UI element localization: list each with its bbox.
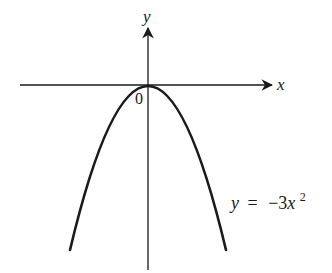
equation-exponent: 2 <box>300 190 306 204</box>
origin-label: 0 <box>135 90 143 107</box>
x-axis-label: x <box>276 75 285 94</box>
equation-variable-x: x <box>286 193 295 213</box>
equation-equals: = <box>248 193 258 213</box>
equation-rhs: −3 <box>268 193 287 213</box>
equation-label: y = −3x 2 <box>229 190 306 213</box>
equation-lhs: y <box>229 193 239 213</box>
y-axis-label: y <box>141 7 151 26</box>
parabola-diagram: y x 0 y = −3x 2 <box>0 0 332 273</box>
